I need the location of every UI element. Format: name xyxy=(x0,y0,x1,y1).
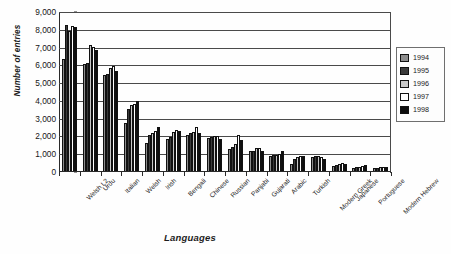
x-category-label: Arabic xyxy=(290,177,308,195)
y-tick-label: 9,000 xyxy=(18,8,56,16)
bar xyxy=(198,133,201,171)
bar xyxy=(344,164,347,171)
bar-chart-figure: Number of entries 9,0008,0007,0006,0005,… xyxy=(0,0,451,254)
legend-item: 1995 xyxy=(400,64,442,77)
legend-label: 1995 xyxy=(413,67,429,75)
bar xyxy=(323,159,326,171)
bar-group xyxy=(350,11,371,171)
y-axis-tick-labels: 9,0008,0007,0006,0005,0004,0003,0002,000… xyxy=(18,12,56,172)
legend-label: 1996 xyxy=(413,80,429,88)
x-category-label: Modern Hebrew xyxy=(402,177,440,215)
legend-label: 1994 xyxy=(413,54,429,62)
x-category-label: Turkish xyxy=(311,177,331,197)
x-category-label: Bengali xyxy=(187,177,208,198)
bar xyxy=(219,139,222,171)
x-axis-category-labels: Welsh L2UrduItalianWelshIrishBengaliChin… xyxy=(59,175,391,233)
bar xyxy=(157,127,160,171)
bar-group xyxy=(287,11,308,171)
x-category-label: Gujarati xyxy=(270,177,291,198)
x-category-label: Irish xyxy=(163,177,177,191)
bar xyxy=(364,165,367,171)
y-tick-label: 2,000 xyxy=(18,132,56,140)
y-tick-label: 5,000 xyxy=(18,79,56,87)
legend-item: 1997 xyxy=(400,90,442,103)
bar-group xyxy=(142,11,163,171)
x-category-label: Russian xyxy=(229,177,251,199)
x-category-label: Italian xyxy=(123,177,140,194)
bar-group xyxy=(225,11,246,171)
bar xyxy=(136,101,139,171)
bar xyxy=(281,151,284,171)
bar-group xyxy=(329,11,350,171)
bar xyxy=(385,167,388,171)
legend-swatch xyxy=(400,67,409,75)
bar xyxy=(178,131,181,171)
bar-group xyxy=(121,11,142,171)
x-category-label: Portuguese xyxy=(377,177,406,206)
bar-group xyxy=(80,11,101,171)
legend-item: 1998 xyxy=(400,103,442,116)
bar xyxy=(115,71,118,171)
y-tick-label: 0 xyxy=(18,168,56,176)
legend-swatch xyxy=(400,80,409,88)
y-tick-label: 7,000 xyxy=(18,43,56,51)
x-category-label: Panjabi xyxy=(249,177,270,198)
bar xyxy=(95,50,98,171)
bar-groups xyxy=(59,11,391,171)
legend-item: 1994 xyxy=(400,51,442,64)
legend-item: 1996 xyxy=(400,77,442,90)
bar xyxy=(74,27,77,171)
bar xyxy=(261,151,264,171)
legend-swatch xyxy=(400,106,409,114)
bar-group xyxy=(204,11,225,171)
plot-area xyxy=(59,12,391,172)
x-category-label: Welsh xyxy=(144,177,162,195)
y-tick-label: 6,000 xyxy=(18,61,56,69)
legend-label: 1997 xyxy=(413,93,429,101)
bar-group xyxy=(101,11,122,171)
bar-group xyxy=(370,11,391,171)
legend-swatch xyxy=(400,54,409,62)
y-tick-label: 4,000 xyxy=(18,97,56,105)
legend: 19941995199619971998 xyxy=(396,47,445,122)
bar xyxy=(302,156,305,171)
bar-group xyxy=(59,11,80,171)
bar xyxy=(240,140,243,171)
x-axis-title: Languages xyxy=(0,232,380,243)
y-tick-label: 3,000 xyxy=(18,115,56,123)
bar-group xyxy=(163,11,184,171)
y-tick-label: 8,000 xyxy=(18,26,56,34)
legend-label: 1998 xyxy=(413,106,429,114)
x-tick-mark xyxy=(391,172,392,176)
x-category-label: Chinese xyxy=(208,177,230,199)
legend-swatch xyxy=(400,93,409,101)
bar-group xyxy=(184,11,205,171)
bar-group xyxy=(308,11,329,171)
bar-group xyxy=(267,11,288,171)
bar-group xyxy=(246,11,267,171)
y-tick-label: 1,000 xyxy=(18,150,56,158)
